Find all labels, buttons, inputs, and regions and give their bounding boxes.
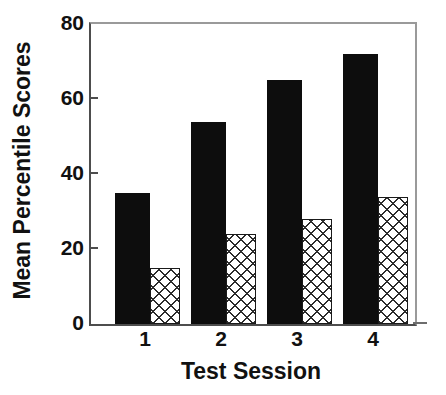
y-tick-label-0: 0 [40, 312, 84, 333]
bar-session-3-hatch [302, 219, 332, 324]
bar-session-2-hatch [226, 234, 256, 324]
x-tick-label-3: 3 [262, 328, 332, 349]
x-tick-label-4: 4 [338, 328, 408, 349]
bar-session-3-solid [267, 80, 302, 324]
y-tick-label-40: 40 [40, 162, 84, 183]
bar-session-1-hatch [150, 268, 180, 324]
y-tick-label-80: 80 [40, 12, 84, 33]
bar-session-4-hatch [378, 197, 408, 325]
bar-session-1-solid [115, 193, 150, 324]
x-tick-label-2: 2 [186, 328, 256, 349]
y-axis-tick-labels: 80 60 40 20 0 [38, 0, 84, 340]
bar-session-2-solid [191, 122, 226, 325]
x-axis-title: Test Session [89, 358, 413, 385]
bar-chart-figure: Mean Percentile Scores 80 60 40 20 0 [0, 0, 446, 395]
y-tick-label-20: 20 [40, 237, 84, 258]
plot-area [89, 22, 417, 326]
bar-group-container [91, 24, 415, 324]
y-tick-label-60: 60 [40, 87, 84, 108]
bar-session-4-solid [343, 54, 378, 324]
x-axis-baseline-extension [413, 322, 427, 324]
y-axis-title-text: Mean Percentile Scores [9, 41, 36, 299]
x-tick-label-1: 1 [110, 328, 180, 349]
